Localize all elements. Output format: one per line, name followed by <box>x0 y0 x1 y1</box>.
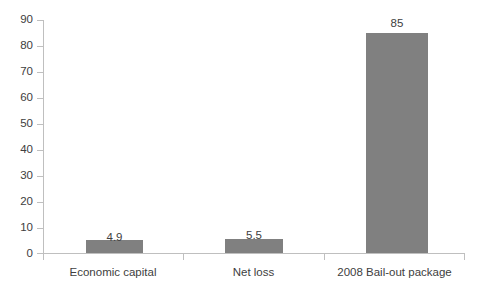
x-axis-tick <box>324 254 325 260</box>
y-tick-label: 20 <box>3 196 33 208</box>
bar-chart: 90 80 70 60 50 40 30 20 10 0 4.9 5.5 85 … <box>0 0 483 302</box>
x-axis-category-label: Net loss <box>183 266 324 279</box>
y-tick-label: 40 <box>3 144 33 156</box>
x-axis-category-label: 2008 Bail-out package <box>324 266 465 279</box>
x-axis-line <box>43 253 465 254</box>
x-axis-tick <box>464 254 465 260</box>
x-axis-tick <box>183 254 184 260</box>
y-tick-label: 30 <box>3 170 33 182</box>
x-axis-category-label: Economic capital <box>43 266 183 279</box>
y-tick-label: 80 <box>3 40 33 52</box>
y-tick-label: 0 <box>3 248 33 260</box>
bar-value-label: 4.9 <box>86 232 143 244</box>
bar-value-label: 5.5 <box>225 230 283 242</box>
y-tick-label: 10 <box>3 222 33 234</box>
y-tick-label: 60 <box>3 92 33 104</box>
bar[interactable] <box>366 33 428 253</box>
bar-value-label: 85 <box>366 18 428 30</box>
y-tick-label: 70 <box>3 66 33 78</box>
plot-area <box>43 20 465 253</box>
y-tick-label: 90 <box>3 14 33 26</box>
y-tick-label: 50 <box>3 118 33 130</box>
x-axis-tick <box>43 254 44 260</box>
y-axis-tick-labels: 90 80 70 60 50 40 30 20 10 0 <box>0 0 33 302</box>
